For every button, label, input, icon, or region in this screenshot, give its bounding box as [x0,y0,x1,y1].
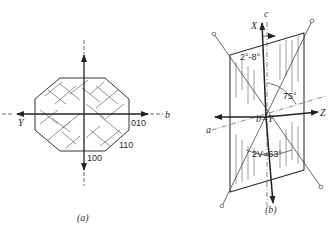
optic-axis-end-br [319,185,323,189]
label-c-axis: c [264,8,269,19]
optic-axis-end-tr [310,19,314,23]
label-b-axis: b [165,109,170,120]
z-vibration-arrow [267,112,318,117]
label-b-equals-y: b=Y [256,113,275,124]
label-extinction-angle: 2°-8° [240,52,261,62]
optic-axis-end-bl [220,204,224,208]
face-label-110: 110 [119,140,133,150]
optic-axis-end-tl [212,32,216,36]
label-y-axis: Y [18,117,25,128]
panel-a: Y b 010 110 100 (a) [2,40,170,224]
face-label-010: 010 [131,118,146,128]
label-angle-75: 75° [283,91,297,101]
label-a-axis: a [206,124,211,135]
figure-canvas: Y b 010 110 100 (a) [0,0,331,226]
label-optic-angle-2v: 2V=63° [252,149,282,159]
label-z-axis: Z [320,107,326,118]
caption-b: (b) [265,204,277,216]
label-x-axis: X [250,20,258,31]
panel-b: c X Z a b=Y 2°-8° 75° 2V=63° (b) [206,8,326,216]
caption-a: (a) [77,212,89,224]
face-label-100: 100 [87,153,102,163]
